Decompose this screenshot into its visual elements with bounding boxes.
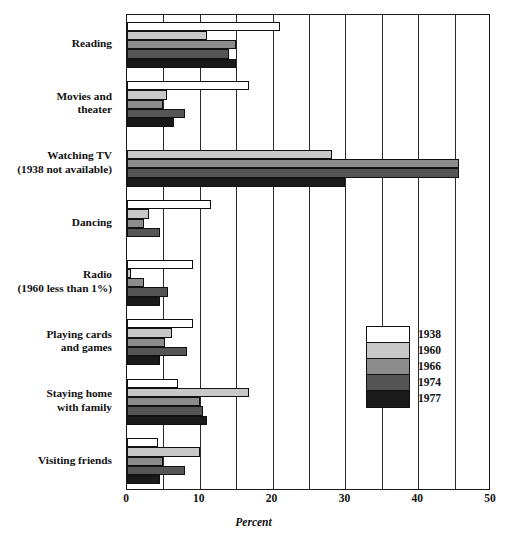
y-axis-label: Playing cardsand games	[0, 328, 112, 355]
bar	[127, 438, 158, 447]
x-axis-tick-label: 10	[193, 492, 205, 504]
bar	[127, 31, 207, 40]
bar-group	[127, 134, 489, 194]
bar-group	[127, 432, 489, 492]
x-axis-title: Percent	[0, 516, 507, 528]
legend-label: 1960	[418, 342, 441, 358]
bar	[127, 356, 160, 365]
bar	[127, 466, 185, 475]
bar	[127, 59, 236, 68]
legend-label: 1938	[418, 326, 441, 342]
y-axis-label-line: and games	[0, 341, 112, 355]
bar	[127, 297, 160, 306]
bar	[127, 447, 200, 456]
bar	[127, 269, 131, 278]
x-axis-tick-label: 50	[484, 492, 496, 504]
y-axis-label: Watching TV(1938 not available)	[0, 149, 112, 176]
y-axis-label: Reading	[0, 37, 112, 51]
bar	[127, 278, 144, 287]
bar	[127, 219, 144, 228]
bar	[127, 100, 163, 109]
bar	[127, 49, 229, 58]
y-axis-labels: ReadingMovies andtheaterWatching TV(1938…	[0, 14, 120, 490]
bar	[127, 416, 207, 425]
bar-chart: ReadingMovies andtheaterWatching TV(1938…	[0, 0, 507, 547]
bar	[127, 209, 149, 218]
bar	[127, 347, 187, 356]
bar	[127, 81, 249, 90]
bar	[127, 40, 236, 49]
bar	[127, 475, 160, 484]
legend-label: 1966	[418, 358, 441, 374]
bar	[127, 90, 167, 99]
bar	[127, 200, 211, 209]
bar-group	[127, 75, 489, 135]
bar	[127, 388, 249, 397]
legend-swatches	[366, 326, 410, 408]
y-axis-label-line: (1960 less than 1%)	[0, 282, 112, 296]
bar-group	[127, 194, 489, 254]
bar	[127, 159, 459, 168]
bar	[127, 260, 193, 269]
y-axis-label: Staying homewith family	[0, 387, 112, 414]
bar	[127, 338, 165, 347]
legend-swatch	[367, 391, 409, 407]
y-axis-label: Radio(1960 less than 1%)	[0, 268, 112, 295]
x-axis-tick-label: 30	[339, 492, 351, 504]
bar	[127, 379, 178, 388]
y-axis-label-line: theater	[0, 103, 112, 117]
bar-group	[127, 253, 489, 313]
bar	[127, 319, 193, 328]
y-axis-label-line: with family	[0, 401, 112, 415]
x-axis-tick-label: 40	[411, 492, 423, 504]
bar	[127, 328, 172, 337]
bar	[127, 118, 174, 127]
y-axis-label-line: Playing cards	[0, 328, 112, 342]
bar	[127, 406, 203, 415]
legend-swatch	[367, 327, 409, 343]
y-axis-label: Visiting friends	[0, 454, 112, 468]
legend-label: 1974	[418, 374, 441, 390]
bar	[127, 168, 459, 177]
y-axis-label-line: (1938 not available)	[0, 163, 112, 177]
y-axis-label-line: Radio	[0, 268, 112, 282]
legend-label: 1977	[418, 390, 441, 406]
y-axis-label-line: Reading	[0, 37, 112, 51]
y-axis-label-line: Dancing	[0, 216, 112, 230]
bar	[127, 150, 332, 159]
plot-area	[126, 14, 490, 490]
bar	[127, 397, 200, 406]
legend-swatch	[367, 359, 409, 375]
bar-group	[127, 15, 489, 75]
bar	[127, 109, 185, 118]
legend-labels: 19381960196619741977	[418, 326, 441, 406]
y-axis-label: Movies andtheater	[0, 90, 112, 117]
bar	[127, 457, 163, 466]
x-axis-tick-label: 20	[266, 492, 278, 504]
y-axis-label: Dancing	[0, 216, 112, 230]
y-axis-label-line: Staying home	[0, 387, 112, 401]
x-axis-tick-label: 0	[123, 492, 129, 504]
bar	[127, 22, 280, 31]
x-axis-ticks: 01020304050	[0, 492, 507, 510]
legend-swatch	[367, 343, 409, 359]
bar	[127, 178, 345, 187]
bar	[127, 287, 168, 296]
y-axis-label-line: Visiting friends	[0, 454, 112, 468]
y-axis-label-line: Watching TV	[0, 149, 112, 163]
bar	[127, 228, 160, 237]
y-axis-label-line: Movies and	[0, 90, 112, 104]
legend-swatch	[367, 375, 409, 391]
